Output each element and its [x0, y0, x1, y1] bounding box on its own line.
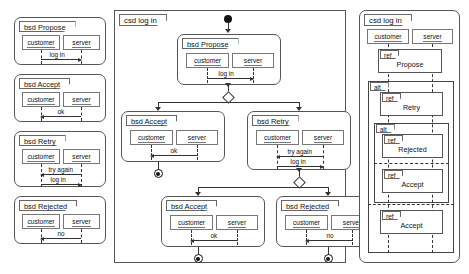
message-label: no	[56, 230, 66, 237]
csd-node-bsd-accept-1[interactable]: bsd Accept customer server ok	[121, 111, 225, 162]
csd-log-in-frame[interactable]: csd log in bsd Propose customer server l…	[114, 10, 346, 263]
bsd-retry-label: bsd Retry	[19, 135, 66, 146]
role-label-customer: customer	[27, 96, 54, 105]
ref-accept-name: Accept	[402, 174, 424, 189]
lifeline-server	[197, 145, 198, 160]
message-arrow	[277, 156, 323, 157]
role-label-customer: customer	[178, 219, 205, 228]
role-label-server: server	[188, 134, 206, 143]
lifeline-head-customer: customer	[367, 29, 409, 44]
lifeline-customer	[151, 145, 152, 160]
lifeline-head-server: server	[63, 92, 100, 107]
lifeline-server	[81, 229, 82, 243]
csd-log-in-label: csd log in	[364, 14, 412, 26]
message-arrow	[277, 166, 323, 167]
role-label-server: server	[314, 134, 332, 143]
role-label-customer: customer	[374, 33, 401, 42]
message-label: try again	[286, 148, 314, 155]
role-label-server: server	[228, 219, 246, 228]
role-label-server: server	[244, 57, 262, 66]
lifeline-head-customer: customer	[186, 53, 229, 68]
lifeline-head-server: server	[302, 130, 344, 145]
lifeline-head-server: server	[63, 214, 100, 229]
lifeline-head-customer: customer	[130, 130, 173, 145]
bsd-propose-frame[interactable]: bsd Propose customer server log in	[14, 17, 106, 65]
lifeline-head-customer: customer	[22, 214, 60, 229]
message-label: log in	[48, 51, 66, 58]
flow-edge	[158, 102, 299, 103]
lifeline-head-customer: customer	[22, 35, 60, 50]
role-label-customer: customer	[27, 153, 54, 162]
lifeline-customer	[41, 50, 42, 64]
lifeline-server	[237, 230, 238, 245]
ref-keyword-label: ref	[384, 135, 403, 144]
message-label: ok	[56, 108, 66, 115]
lifeline-server	[81, 107, 82, 121]
ref-accept-name: Accept	[401, 215, 423, 230]
bsd-propose-label: bsd Propose	[19, 21, 76, 32]
lifeline-head-server: server	[176, 130, 218, 145]
bsd-rejected-label: bsd Rejected	[19, 200, 77, 211]
operand-separator	[368, 204, 454, 205]
message-arrow	[191, 240, 237, 241]
lifeline-head-customer: customer	[22, 92, 60, 107]
bsd-retry-label: bsd Retry	[252, 115, 299, 126]
lifeline-head-server: server	[232, 53, 274, 68]
message-arrow	[41, 59, 81, 60]
role-label-customer: customer	[194, 57, 221, 66]
lifeline-customer	[191, 230, 192, 245]
lifeline-head-customer: customer	[22, 149, 60, 164]
csd-combined-fragment-frame[interactable]: csd log in customer server Propose ref a…	[359, 10, 460, 263]
bsd-accept-label: bsd Accept	[19, 78, 70, 89]
lifeline-head-customer: customer	[170, 215, 213, 230]
operand-separator	[374, 163, 449, 164]
flow-arrowhead-icon	[296, 168, 302, 172]
role-label-server: server	[72, 96, 90, 105]
message-arrow	[306, 240, 352, 241]
message-label: log in	[49, 176, 67, 183]
ref-retry-name: Retry	[403, 97, 420, 112]
role-label-customer: customer	[27, 39, 54, 48]
role-label-server: server	[72, 218, 90, 227]
final-node	[154, 169, 163, 178]
final-node	[324, 254, 333, 263]
role-label-customer: customer	[138, 134, 165, 143]
final-node	[194, 254, 203, 263]
lifeline-customer	[306, 230, 307, 245]
role-label-server: server	[72, 39, 90, 48]
message-label: ok	[209, 232, 219, 239]
message-arrow	[41, 184, 81, 185]
bsd-rejected-label: bsd Rejected	[281, 200, 339, 211]
lifeline-server	[352, 230, 353, 245]
bsd-retry-frame[interactable]: bsd Retry customer server try again log …	[14, 131, 106, 187]
message-arrow	[207, 78, 253, 79]
role-label-customer: customer	[293, 219, 320, 228]
initial-node	[224, 15, 232, 23]
diagram-canvas: bsd Propose customer server log in bsd A…	[0, 0, 469, 274]
bsd-accept-label: bsd Accept	[166, 200, 217, 211]
lifeline-server	[253, 68, 254, 83]
role-label-customer: customer	[27, 218, 54, 227]
message-arrow	[41, 174, 81, 175]
lifeline-head-customer: customer	[285, 215, 328, 230]
bsd-propose-label: bsd Propose	[182, 38, 239, 49]
bsd-accept-frame[interactable]: bsd Accept customer server ok	[14, 74, 106, 122]
message-arrow	[41, 116, 81, 117]
ref-keyword-label: ref	[382, 211, 401, 220]
lifeline-head-customer: customer	[256, 130, 299, 145]
lifeline-head-server: server	[63, 35, 100, 50]
alt-keyword-label-outer: alt	[370, 82, 389, 91]
lifeline-head-server: server	[63, 149, 100, 164]
ref-keyword-label: ref	[384, 170, 403, 179]
bsd-rejected-frame[interactable]: bsd Rejected customer server no	[14, 196, 106, 244]
csd-node-bsd-retry[interactable]: bsd Retry customer server try again log …	[247, 111, 351, 170]
message-label: ok	[169, 147, 179, 154]
lifeline-customer	[207, 68, 208, 83]
role-label-customer: customer	[264, 134, 291, 143]
csd-node-bsd-accept-2[interactable]: bsd Accept customer server ok	[161, 196, 265, 247]
ref-keyword-label: ref	[380, 50, 399, 59]
csd-node-bsd-propose[interactable]: bsd Propose customer server log in	[177, 34, 281, 85]
role-label-server: server	[72, 153, 90, 162]
ref-keyword-label: ref	[382, 93, 401, 102]
message-label: log in	[217, 70, 235, 77]
